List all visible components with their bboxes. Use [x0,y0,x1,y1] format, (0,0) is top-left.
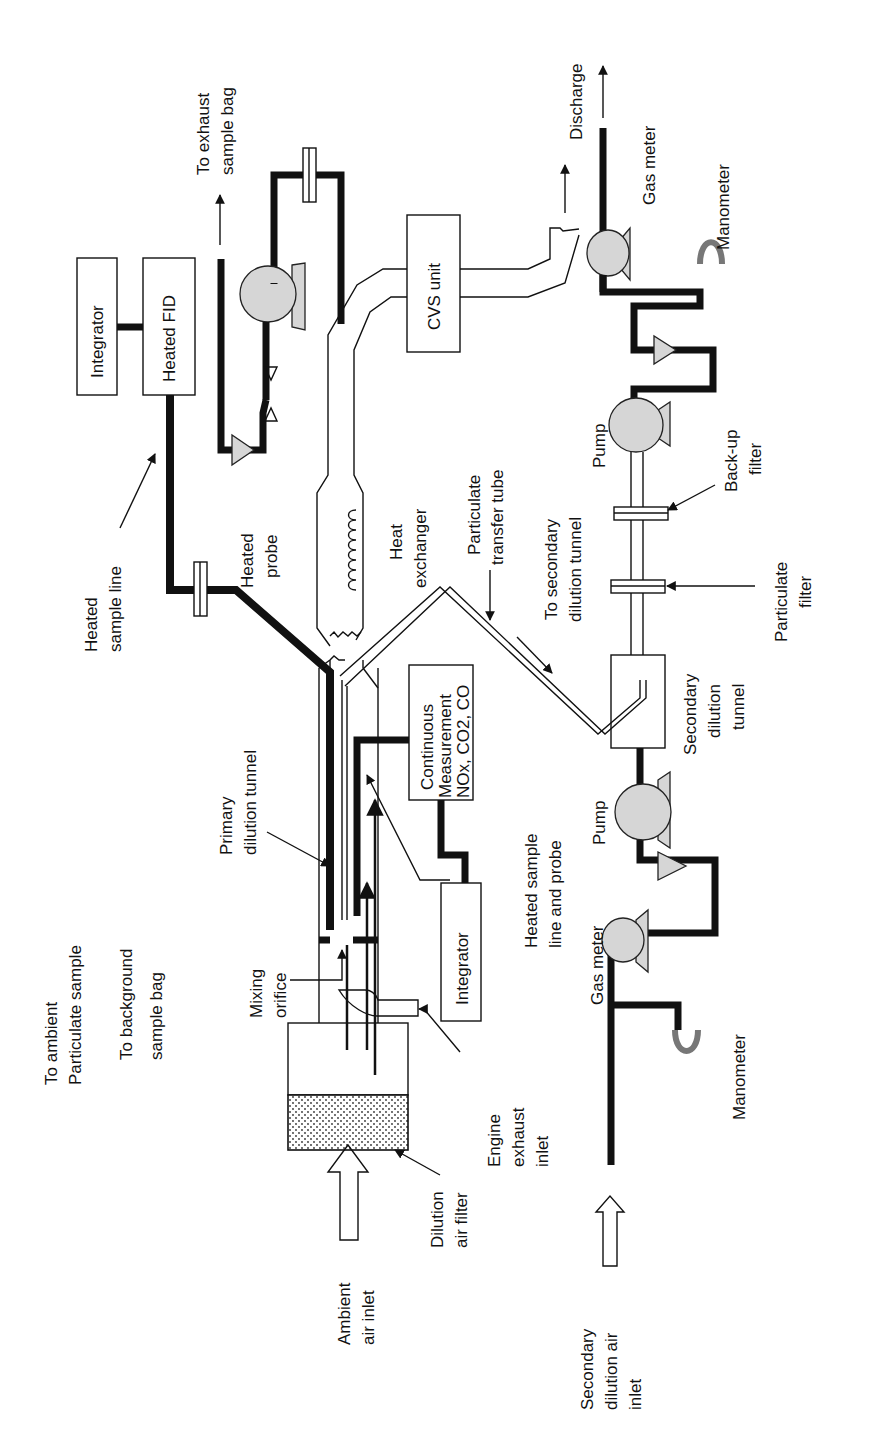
label-manometer-bottom: Manometer [730,1034,749,1120]
label-integrator-bottom: Integrator [453,932,472,1005]
label-to-ambient-2: Particulate sample [66,945,85,1085]
label-manometer-top: Manometer [714,164,733,250]
flow-meter-top-icon [654,336,676,364]
label-integrator-top: Integrator [88,305,107,378]
backup-filter-pointer [668,485,715,510]
label-gas-meter-bottom: Gas meter [588,925,607,1005]
continuous-integrator-link [441,800,465,885]
pump-bottom-icon [615,772,671,848]
label-dilution-filter-2: air filter [452,1192,471,1248]
label-to-secondary-2: dilution tunnel [566,517,585,622]
flow-meter-bottom-icon [658,852,686,880]
label-heat-exchanger-2: exchanger [411,508,430,588]
label-heated-sample-line-1: Heated [82,597,101,652]
label-to-ambient-1: To ambient [42,1002,61,1085]
cvs-outlet-duct [460,228,579,269]
label-secondary-inlet-2: dilution air [602,1332,621,1410]
label-particulate-transfer-2: transfer tube [488,470,507,565]
label-to-exhaust-2: sample bag [218,87,237,175]
label-heated-sample-probe-1: Heated sample [522,834,541,948]
gas-meter-top-icon [587,228,630,280]
label-engine-exhaust-2: exhaust [509,1107,528,1167]
primary-tunnel-pointer [267,832,330,866]
label-particulate-transfer-1: Particulate [465,475,484,555]
label-heated-probe-2: probe [262,535,281,578]
label-heated-probe-1: Heated [238,533,257,588]
label-mixing-orifice-1: Mixing [247,969,266,1018]
manometer-bottom-icon [675,1030,698,1051]
label-primary-tunnel-1: Primary [217,796,236,855]
label-heated-sample-line-2: sample line [106,566,125,652]
heat-exchanger-coil [349,510,357,590]
label-heated-sample-probe-2: line and probe [546,840,565,948]
label-particulate-filter-2: filter [796,576,815,608]
pump-top-icon [609,398,670,452]
label-secondary-inlet-3: inlet [626,1379,645,1410]
label-heated-fid: Heated FID [160,295,179,382]
label-backup-filter-2: filter [746,443,765,475]
label-secondary-tunnel-2: dilution [705,684,724,738]
label-ambient-inlet-1: Ambient [335,1282,354,1345]
heated-sample-line-pointer [120,454,155,528]
label-cvs-unit: CVS unit [425,263,444,330]
label-continuous-2: Measurement [436,694,455,798]
label-heat-exchanger-1: Heat [387,524,406,560]
label-particulate-filter-1: Particulate [772,562,791,642]
ambient-air-inlet-arrow [328,1145,368,1240]
label-to-exhaust-1: To exhaust [194,93,213,175]
continuous-probe [357,740,409,916]
label-gas-meter-top: Gas meter [640,125,659,205]
secondary-air-inlet-arrow [596,1196,624,1266]
mixing-orifice-pointer [290,950,342,980]
secondary-dilution-tunnel-box [611,655,665,748]
manometer-branch [611,1005,678,1030]
dilution-filter-pointer [395,1150,440,1175]
label-discharge: Discharge [567,63,586,140]
label-secondary-tunnel-3: tunnel [729,684,748,730]
label-backup-filter-1: Back-up [722,430,741,492]
pump-icon [240,263,305,330]
label-engine-exhaust-3: inlet [533,1136,552,1167]
label-dilution-filter-1: Dilution [428,1191,447,1248]
label-continuous-3: NOx, CO2, CO [454,685,473,798]
flow-meter-icon [232,435,254,465]
label-secondary-inlet-1: Secondary [578,1328,597,1410]
label-to-background-2: sample bag [147,972,166,1060]
label-engine-exhaust-1: Engine [485,1114,504,1167]
label-mixing-orifice-2: orifice [271,973,290,1018]
cvs-duct [317,269,407,646]
label-primary-tunnel-2: dilution tunnel [241,750,260,855]
exhaust-dilution-sampling-diagram: To exhaust sample bag Integrator Heated … [0,0,869,1456]
label-pump-top: Pump [590,424,609,468]
label-continuous-1: Continuous [418,704,437,790]
label-to-secondary-1: To secondary [542,518,561,620]
label-secondary-tunnel-1: Secondary [681,673,700,755]
dilution-air-filter [288,1095,408,1150]
label-pump-bottom: Pump [590,801,609,845]
label-to-background-1: To background [117,948,136,1060]
label-ambient-inlet-2: air inlet [359,1290,378,1345]
